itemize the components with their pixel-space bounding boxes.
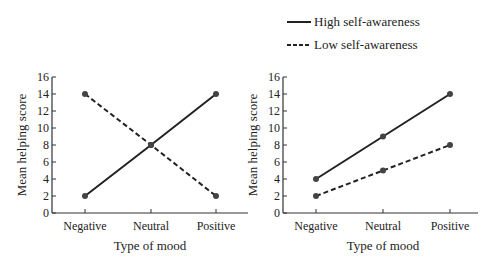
y-tick-label: 8	[43, 138, 49, 152]
y-tick-label: 10	[37, 121, 49, 135]
y-tick-label: 4	[274, 172, 280, 186]
y-tick-label: 14	[268, 87, 280, 101]
y-tick-label: 12	[37, 104, 49, 118]
x-tick-label: Negative	[294, 219, 337, 233]
data-point-marker	[447, 142, 453, 148]
y-tick-label: 6	[274, 155, 280, 169]
x-tick-label: Neutral	[365, 219, 402, 233]
data-point-marker	[380, 168, 386, 174]
y-axis-title: Mean helping score	[245, 94, 260, 197]
data-point-marker	[213, 193, 219, 199]
data-point-marker	[313, 176, 319, 182]
x-axis-title: Type of mood	[114, 238, 187, 253]
data-point-marker	[82, 193, 88, 199]
y-tick-label: 14	[37, 87, 49, 101]
y-tick-label: 10	[268, 121, 280, 135]
data-point-marker	[148, 142, 154, 148]
data-point-marker	[380, 134, 386, 140]
y-tick-label: 8	[274, 138, 280, 152]
data-point-marker	[213, 91, 219, 97]
y-tick-label: 16	[268, 70, 280, 84]
legend-label-high: High self-awareness	[314, 14, 420, 29]
x-tick-label: Positive	[431, 219, 470, 233]
data-point-marker	[447, 91, 453, 97]
data-point-marker	[313, 193, 319, 199]
y-tick-label: 0	[43, 206, 49, 220]
x-tick-label: Positive	[197, 219, 236, 233]
right-chart: 0246810121416NegativeNeutralPositiveType…	[245, 70, 478, 253]
y-tick-label: 16	[37, 70, 49, 84]
y-tick-label: 2	[274, 189, 280, 203]
y-tick-label: 12	[268, 104, 280, 118]
x-tick-label: Neutral	[133, 219, 170, 233]
y-tick-label: 4	[43, 172, 49, 186]
left-chart: 0246810121416NegativeNeutralPositiveType…	[14, 70, 248, 253]
legend: High self-awareness Low self-awareness	[287, 14, 420, 52]
legend-label-low: Low self-awareness	[314, 37, 418, 52]
y-tick-label: 2	[43, 189, 49, 203]
x-axis-title: Type of mood	[347, 238, 420, 253]
data-point-marker	[82, 91, 88, 97]
y-tick-label: 0	[274, 206, 280, 220]
y-axis-title: Mean helping score	[14, 94, 29, 197]
y-tick-label: 6	[43, 155, 49, 169]
x-tick-label: Negative	[63, 219, 106, 233]
figure: High self-awareness Low self-awareness 0…	[0, 0, 491, 264]
